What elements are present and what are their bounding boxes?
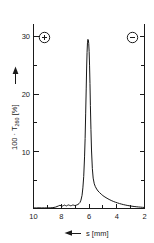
- x-tick-label-10: 10: [29, 212, 37, 221]
- y-tick-label-30: 30: [22, 32, 30, 41]
- x-tick-label-8: 8: [59, 212, 63, 221]
- x-tick-label-6: 6: [87, 212, 91, 221]
- y-tick-labels: 30 20 10: [22, 32, 30, 156]
- y-axis-ticks-left: [34, 37, 39, 181]
- chart-canvas: 30 20 10 10 8 6 4 2 100 · T260 [%]: [0, 0, 154, 243]
- y-axis-caption-subscript: 260: [14, 117, 20, 126]
- x-tick-label-2: 2: [142, 212, 146, 221]
- y-axis-arrow-icon: [13, 67, 19, 85]
- x-axis-caption: s [mm]: [86, 229, 109, 238]
- y-axis-ticks-right: [140, 37, 145, 181]
- cathode-polarity-marker: [127, 32, 137, 42]
- x-axis-caption-unit: [mm]: [92, 229, 109, 238]
- t260-scan-curve: [34, 39, 145, 208]
- x-tick-labels: 10 8 6 4 2: [29, 212, 146, 221]
- x-axis-arrow-icon: [65, 230, 82, 236]
- y-axis-arrow-head: [13, 67, 19, 75]
- y-axis-caption-prefix: 100 · T: [10, 126, 19, 150]
- y-axis-caption: 100 · T260 [%]: [10, 104, 20, 150]
- x-axis-arrow-head: [65, 230, 73, 236]
- electrophoresis-scan-figure: 30 20 10 10 8 6 4 2 100 · T260 [%]: [0, 0, 154, 243]
- y-tick-label-20: 20: [22, 90, 30, 99]
- y-axis-caption-group: 100 · T260 [%]: [10, 67, 20, 151]
- anode-polarity-marker: [39, 32, 49, 42]
- x-tick-label-4: 4: [115, 212, 119, 221]
- x-axis-caption-group: s [mm]: [65, 229, 109, 238]
- y-axis-caption-unit: [%]: [10, 104, 19, 115]
- y-tick-label-10: 10: [22, 148, 30, 157]
